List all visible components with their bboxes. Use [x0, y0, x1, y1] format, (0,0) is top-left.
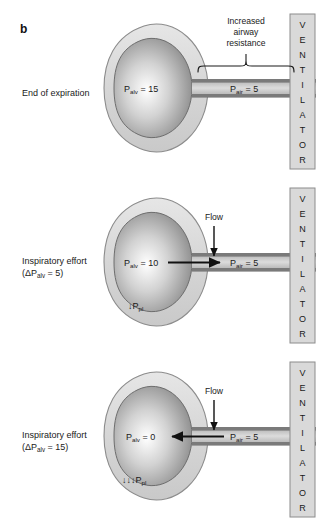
p-alv-value: 15: [148, 84, 158, 94]
figure-panel-letter: b: [20, 22, 27, 36]
p-alv-label: Palv = 0: [126, 432, 155, 443]
ventilator-letter: L: [300, 95, 305, 105]
panel-caption-line: Inspiratory effort: [22, 256, 87, 268]
flow-label: Flow: [205, 386, 224, 396]
p-air-value: 5: [253, 84, 258, 94]
airway-resistance-brace: [198, 61, 294, 72]
delta-suffix: = 15): [45, 442, 68, 452]
ventilator-letter: T: [300, 413, 306, 423]
ventilator-letter: N: [299, 398, 306, 408]
airway-resistance-label-line: airway: [234, 27, 260, 37]
p-air-label: Pair = 5: [230, 432, 258, 443]
p-air-subscript: air: [236, 262, 243, 269]
panel-caption-inspiratory-effort-5: Inspiratory effort (ΔPalv = 5): [22, 256, 87, 281]
p-air-subscript: air: [236, 88, 243, 95]
panel-caption-line: Inspiratory effort: [22, 430, 87, 442]
p-air-value: 5: [253, 432, 258, 442]
delta-prefix: (ΔP: [22, 268, 37, 278]
ventilator-letter: N: [299, 50, 306, 60]
panel-caption-delta: (ΔPalv = 15): [22, 442, 87, 456]
delta-subscript: alv: [37, 446, 45, 453]
ventilator-letter: E: [299, 383, 305, 393]
respiratory-mechanics-figure: b End of expiration: [0, 0, 319, 528]
ventilator-letter: R: [299, 503, 306, 513]
ventilator-letter: I: [301, 80, 304, 90]
airway-resistance-label-line: resistance: [226, 38, 265, 48]
ventilator-letter: V: [299, 194, 305, 204]
panel-graphic-inspiratory-effort-15: V E N T I L A T O R Palv = 0 Pair = 5 Fl…: [100, 358, 319, 518]
ventilator-letter: T: [300, 239, 306, 249]
ventilator-letter: R: [299, 155, 306, 165]
p-air-label: Pair = 5: [230, 258, 258, 269]
panel-caption-inspiratory-effort-15: Inspiratory effort (ΔPalv = 15): [22, 430, 87, 455]
p-alv-value: 10: [148, 258, 158, 268]
ventilator-letter: T: [300, 65, 306, 75]
ventilator-letter: L: [300, 443, 305, 453]
ppl-subscript: pl: [139, 305, 144, 312]
airway-resistance-label-line: Increased: [227, 16, 265, 26]
ventilator-letter: L: [300, 269, 305, 279]
ventilator-letter: T: [300, 473, 306, 483]
flow-label: Flow: [205, 212, 224, 222]
panel-caption-line: End of expiration: [22, 88, 90, 98]
ventilator-letter: V: [299, 368, 305, 378]
p-alv-value: 0: [150, 432, 155, 442]
p-alv-label: Palv = 15: [124, 84, 158, 95]
panel-graphic-inspiratory-effort-5: V E N T I L A T O R Palv = 10 Pair = 5 F…: [100, 184, 319, 344]
ventilator-letter: O: [299, 140, 306, 150]
ppl-subscript: pl: [142, 479, 147, 486]
ventilator-letter: N: [299, 224, 306, 234]
ventilator-letter: R: [299, 329, 306, 339]
ventilator-letter: E: [299, 35, 305, 45]
ventilator-letter: A: [299, 284, 305, 294]
delta-prefix: (ΔP: [22, 442, 37, 452]
ventilator-letter: I: [301, 254, 304, 264]
ventilator-letter: O: [299, 314, 306, 324]
p-alv-label: Palv = 10: [124, 258, 158, 269]
ventilator-letter: E: [299, 209, 305, 219]
p-air-value: 5: [253, 258, 258, 268]
panel-graphic-end-of-expiration: V E N T I L A T O R Palv = 15 Pair = 5 I…: [100, 10, 319, 170]
ventilator-letter: T: [300, 125, 306, 135]
p-air-label: Pair = 5: [230, 84, 258, 95]
ventilator-letter: O: [299, 488, 306, 498]
ventilator-letter: A: [299, 110, 305, 120]
ventilator-letter: T: [300, 299, 306, 309]
delta-suffix: = 5): [45, 268, 63, 278]
ventilator-letter: I: [301, 428, 304, 438]
panel-caption-delta: (ΔPalv = 5): [22, 268, 87, 282]
p-air-subscript: air: [236, 436, 243, 443]
ventilator-letter: A: [299, 458, 305, 468]
panel-caption-end-of-expiration: End of expiration: [22, 88, 90, 100]
ventilator-letter: V: [299, 20, 305, 30]
delta-subscript: alv: [37, 272, 45, 279]
